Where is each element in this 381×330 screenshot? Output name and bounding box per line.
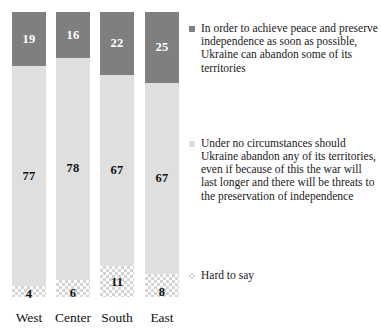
legend-item-hard-to-say[interactable]: Hard to say <box>189 269 379 282</box>
bar-group-south[interactable]: 22 67 11 <box>100 12 134 297</box>
bar-segment-hard-to-say[interactable]: 11 <box>100 266 134 297</box>
legend-item-label: Under no circumstances should Ukraine ab… <box>201 137 379 203</box>
light-gray-square-icon <box>189 141 195 147</box>
bar-segment-abandon-some[interactable]: 16 <box>56 12 90 58</box>
bar-segment-abandon-none[interactable]: 78 <box>56 58 90 280</box>
bar-stack: 16 78 6 <box>56 12 90 297</box>
bar-value-label: 67 <box>111 164 124 177</box>
bar-segment-abandon-some[interactable]: 19 <box>12 12 46 66</box>
checkered-square-icon <box>189 273 195 279</box>
bar-segment-hard-to-say[interactable]: 8 <box>145 274 179 297</box>
bar-value-label: 4 <box>26 288 32 301</box>
legend-item-label: In order to achieve peace and preserve i… <box>201 22 379 75</box>
bar-value-label: 78 <box>67 162 80 175</box>
bar-value-label: 6 <box>70 287 76 300</box>
bar-value-label: 8 <box>159 286 165 299</box>
bar-value-label: 67 <box>156 172 169 185</box>
chart-screenshot: 19 77 4 16 78 6 <box>0 0 381 330</box>
bar-stack: 22 67 11 <box>100 12 134 297</box>
bar-value-label: 22 <box>111 37 124 50</box>
bar-group-west[interactable]: 19 77 4 <box>12 12 46 297</box>
bar-value-label: 16 <box>67 29 80 42</box>
bar-value-label: 11 <box>111 276 123 289</box>
bar-segment-hard-to-say[interactable]: 4 <box>12 286 46 297</box>
bar-group-east[interactable]: 25 67 8 <box>145 12 179 297</box>
legend-item-abandon-some[interactable]: In order to achieve peace and preserve i… <box>189 22 379 75</box>
bar-value-label: 25 <box>156 41 169 54</box>
bar-group-center[interactable]: 16 78 6 <box>56 12 90 297</box>
axis-label-east: East <box>134 311 190 325</box>
bar-value-label: 77 <box>23 170 36 183</box>
bar-stack: 25 67 8 <box>145 12 179 297</box>
dark-gray-square-icon <box>189 26 195 32</box>
bar-stack: 19 77 4 <box>12 12 46 297</box>
plot-area: 19 77 4 16 78 6 <box>0 0 190 330</box>
bar-segment-abandon-none[interactable]: 67 <box>145 83 179 274</box>
bar-segment-abandon-some[interactable]: 25 <box>145 12 179 83</box>
legend-item-abandon-none[interactable]: Under no circumstances should Ukraine ab… <box>189 137 379 203</box>
bar-segment-abandon-none[interactable]: 77 <box>12 66 46 285</box>
legend-item-label: Hard to say <box>201 269 379 282</box>
bar-segment-abandon-none[interactable]: 67 <box>100 75 134 266</box>
bar-segment-hard-to-say[interactable]: 6 <box>56 280 90 297</box>
bar-segment-abandon-some[interactable]: 22 <box>100 12 134 75</box>
chart-legend: In order to achieve peace and preserve i… <box>189 22 379 154</box>
bar-value-label: 19 <box>23 33 36 46</box>
